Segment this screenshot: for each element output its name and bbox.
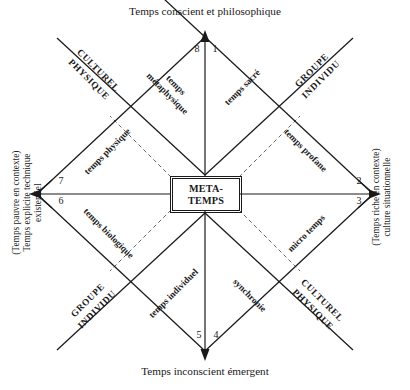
side-caption-left-line2: Temps explicite technique xyxy=(22,123,33,283)
side-caption-right: (Temps riche en contexte) culture situat… xyxy=(371,117,393,277)
octant-number-4: 4 xyxy=(209,330,223,341)
side-caption-right-line1: (Temps riche en contexte) xyxy=(371,117,382,277)
meta-temps-line2: TEMPS xyxy=(188,195,224,207)
meta-temps-diagram: META- TEMPS Temps conscient et philosoph… xyxy=(0,0,410,390)
title-bottom: Temps inconscient émergent xyxy=(0,366,410,378)
octant-number-7: 7 xyxy=(54,176,68,187)
side-caption-left-line3: existentiel xyxy=(34,123,45,283)
octant-number-1: 1 xyxy=(208,44,222,55)
meta-temps-line1: META- xyxy=(189,183,223,195)
meta-temps-box: META- TEMPS xyxy=(172,178,240,211)
side-caption-left: (Temps pauvre en contexte) Temps explici… xyxy=(11,123,44,283)
dashed-radial-ne xyxy=(239,116,300,177)
title-top: Temps conscient et philosophique xyxy=(0,6,410,18)
arrowhead-bottom xyxy=(201,349,210,361)
side-caption-right-line2: culture situationnelle xyxy=(382,117,393,277)
octant-number-3: 3 xyxy=(352,196,366,207)
octant-number-5: 5 xyxy=(192,330,206,341)
side-caption-left-line1: (Temps pauvre en contexte) xyxy=(11,123,22,283)
octant-number-6: 6 xyxy=(54,196,68,207)
octant-number-2: 2 xyxy=(352,176,366,187)
arrowhead-top xyxy=(201,30,210,42)
octant-number-8: 8 xyxy=(190,44,204,55)
